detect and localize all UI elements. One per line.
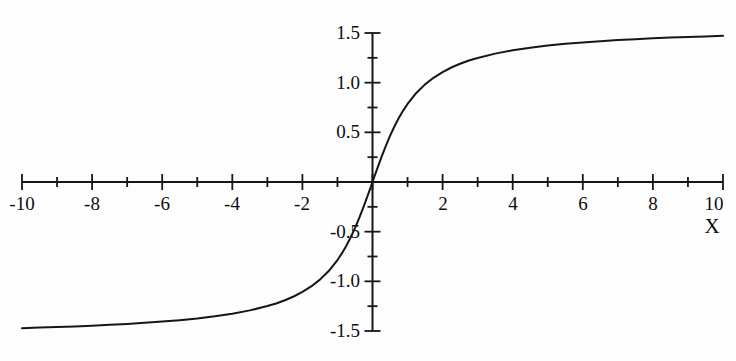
y-tick-label-neg1-0: -1.0: [300, 270, 360, 292]
y-tick-label-neg0-5: -0.5: [300, 221, 360, 243]
x-axis-title: X: [704, 214, 719, 239]
chart-figure: -10 -8 -6 -4 -2 2 4 6 8 10 1.5 1.0 0.5 -…: [0, 0, 736, 361]
x-tick-label-10: 10: [705, 193, 724, 215]
x-tick-label-neg4: -4: [224, 193, 240, 215]
y-tick-label-0-5: 0.5: [300, 121, 360, 143]
y-tick-label-neg1-5: -1.5: [300, 320, 360, 342]
x-tick-label-neg2: -2: [294, 193, 310, 215]
x-tick-label-neg8: -8: [84, 193, 100, 215]
y-tick-label-1-5: 1.5: [300, 22, 360, 44]
arctan-plot: [0, 0, 736, 361]
x-tick-label-8: 8: [648, 193, 658, 215]
x-tick-label-neg10: -10: [9, 193, 34, 215]
x-tick-label-2: 2: [438, 193, 448, 215]
y-tick-label-1-0: 1.0: [300, 72, 360, 94]
x-tick-label-4: 4: [508, 193, 518, 215]
x-tick-label-6: 6: [578, 193, 588, 215]
x-tick-label-neg6: -6: [154, 193, 170, 215]
